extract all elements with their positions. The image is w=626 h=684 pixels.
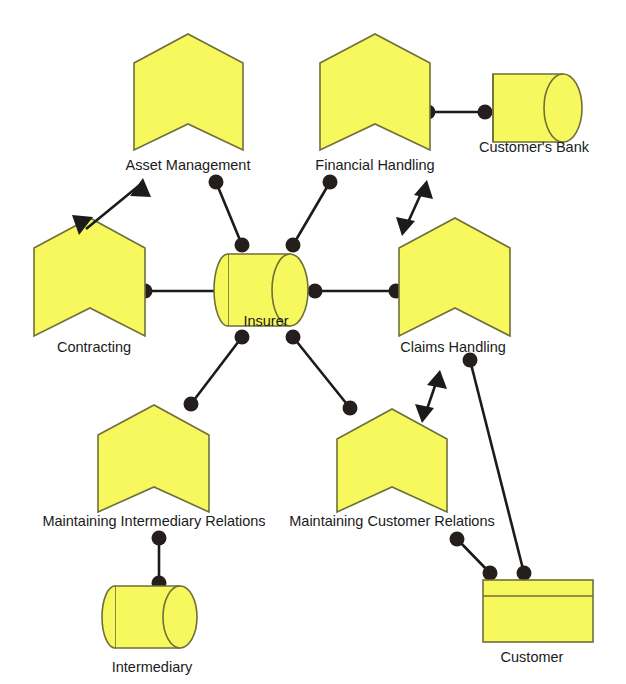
node-label: Asset Management (126, 157, 251, 173)
chevron-shape (34, 218, 145, 336)
connection-claims-handling-to-customer[interactable] (463, 353, 532, 581)
connection-asset-management-to-insurer[interactable] (209, 175, 250, 253)
connection-insurer-to-maintaining-customer-relations[interactable] (286, 330, 358, 416)
node-customer[interactable]: Customer (483, 580, 593, 665)
arrow-head-icon (415, 404, 434, 423)
node-maintaining-intermediary-relations[interactable]: Maintaining Intermediary Relations (42, 405, 265, 529)
connection-ball (308, 284, 323, 299)
node-label: Financial Handling (315, 157, 434, 173)
cylinder-left-edge (214, 254, 228, 326)
node-claims-handling[interactable]: Claims Handling (399, 218, 510, 355)
connection-line (293, 337, 350, 408)
connection-maintaining-customer-relations-to-customer[interactable] (450, 532, 498, 581)
node-label: Maintaining Customer Relations (289, 513, 495, 529)
chevron-shape (98, 405, 209, 512)
cylinder-cap (163, 586, 197, 648)
connection-line (191, 337, 242, 404)
node-insurer[interactable]: Insurer (214, 254, 308, 329)
cylinder-cap (544, 74, 582, 142)
connection-ball (343, 401, 358, 416)
connection-maintaining-intermediary-relations-to-intermediary[interactable] (152, 531, 167, 591)
connection-ball (235, 330, 250, 345)
node-label: Claims Handling (400, 339, 506, 355)
node-contracting[interactable]: Contracting (34, 218, 145, 355)
node-label: Customer's Bank (479, 139, 590, 155)
node-label: Insurer (243, 313, 288, 329)
arrow-contracting-to-asset-management[interactable] (72, 178, 151, 235)
node-label: Intermediary (112, 659, 193, 675)
connection-insurer-to-claims-handling[interactable] (308, 284, 404, 299)
connection-financial-handling-to-customers-bank[interactable] (421, 105, 493, 120)
node-box-shape (483, 580, 593, 642)
connection-ball (152, 531, 167, 546)
node-asset-management[interactable]: Asset Management (126, 34, 251, 173)
connection-ball (323, 175, 338, 190)
chevron-shape (134, 34, 243, 150)
cylinder-left-edge (102, 586, 115, 648)
connection-ball (483, 566, 498, 581)
node-intermediary[interactable]: Intermediary (102, 586, 197, 675)
node-label: Maintaining Intermediary Relations (42, 513, 265, 529)
arrow-claims-handling-to-maintaining-customer-relations[interactable] (415, 370, 447, 423)
connection-financial-handling-to-insurer[interactable] (286, 175, 338, 253)
arrow-head-icon (396, 217, 415, 236)
connection-insurer-to-maintaining-intermediary-relations[interactable] (184, 330, 250, 412)
connection-ball (235, 238, 250, 253)
arrow-head-icon (130, 178, 151, 197)
connection-ball (209, 175, 224, 190)
chevron-shape (320, 34, 430, 150)
node-label: Customer (501, 649, 564, 665)
chevron-shape (399, 218, 510, 336)
arrow-line (86, 184, 141, 229)
connection-ball (517, 566, 532, 581)
connection-line (470, 360, 524, 573)
arrow-head-icon (427, 370, 447, 389)
node-maintaining-customer-relations[interactable]: Maintaining Customer Relations (289, 409, 495, 529)
chevron-shape (337, 409, 447, 512)
connection-ball (184, 397, 199, 412)
node-financial-handling[interactable]: Financial Handling (315, 34, 434, 173)
connection-ball (286, 330, 301, 345)
connection-ball (450, 532, 465, 547)
arrow-head-icon (414, 180, 433, 199)
diagram-svg: Asset Management Financial Handling Cust… (0, 0, 626, 684)
diagram-canvas: Asset Management Financial Handling Cust… (0, 0, 626, 684)
node-label: Contracting (57, 339, 131, 355)
connection-ball (286, 238, 301, 253)
arrow-financial-handling-to-claims-handling[interactable] (396, 180, 433, 236)
connection-ball (478, 105, 493, 120)
connection-line (216, 182, 242, 245)
node-customers-bank[interactable]: Customer's Bank (479, 74, 590, 155)
connection-line (293, 182, 330, 245)
